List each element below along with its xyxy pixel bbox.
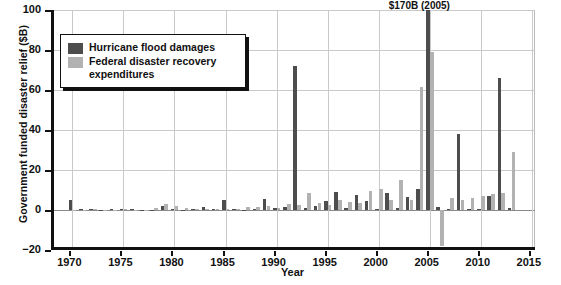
- y-tick-mark: [45, 170, 51, 172]
- gridline-v: [328, 10, 329, 247]
- legend-label-federal: Federal disaster recovery expenditures: [89, 55, 238, 80]
- gridline-v: [532, 10, 533, 247]
- bar: [226, 209, 230, 210]
- x-axis-title: Year: [12, 266, 561, 278]
- bar: [267, 206, 271, 210]
- bar: [287, 204, 291, 210]
- bar: [512, 152, 516, 210]
- bar: [430, 52, 434, 210]
- bar: [471, 198, 475, 210]
- bar: [175, 206, 179, 210]
- bar: [491, 194, 495, 210]
- chart-legend: Hurricane flood damages Federal disaster…: [60, 34, 246, 88]
- y-tick-label: 100: [0, 3, 41, 15]
- bar: [103, 210, 107, 211]
- bar: [73, 210, 77, 211]
- bar: [399, 180, 403, 210]
- plot-right-border: [534, 10, 535, 247]
- bar: [457, 134, 461, 210]
- bar: [358, 203, 362, 210]
- x-tick-mark: [427, 251, 429, 256]
- bar: [293, 66, 297, 210]
- bar: [498, 78, 502, 210]
- legend-item-federal: Federal disaster recovery expenditures: [68, 55, 238, 80]
- y-tick-label: 0: [0, 203, 41, 215]
- peak-annotation: $170B (2005): [389, 0, 450, 11]
- bar: [216, 209, 220, 210]
- x-tick-mark: [120, 251, 122, 256]
- gridline-v: [277, 10, 278, 247]
- bar: [69, 200, 73, 210]
- bar: [389, 200, 393, 210]
- bar: [236, 209, 240, 210]
- bar: [450, 198, 454, 210]
- bar: [195, 209, 199, 210]
- bar: [297, 205, 301, 210]
- bar: [256, 207, 260, 210]
- x-tick-mark: [529, 251, 531, 256]
- bar: [338, 200, 342, 210]
- y-tick-label: −20: [0, 243, 41, 255]
- bar: [246, 207, 250, 210]
- x-tick-mark: [69, 251, 71, 256]
- x-tick-mark: [376, 251, 378, 256]
- y-tick-mark: [45, 50, 51, 52]
- bar: [410, 200, 414, 210]
- bar: [379, 189, 383, 210]
- bar: [113, 210, 117, 211]
- bar: [461, 200, 465, 210]
- bar: [328, 205, 332, 210]
- bar: [307, 193, 311, 210]
- legend-swatch-dark: [68, 43, 83, 54]
- x-tick-mark: [478, 251, 480, 256]
- bar: [277, 208, 281, 210]
- bar: [144, 210, 148, 211]
- gridline-v: [481, 10, 482, 247]
- x-tick-mark: [325, 251, 327, 256]
- gridline-v: [379, 10, 380, 247]
- bar: [83, 210, 87, 211]
- y-tick-mark: [45, 130, 51, 132]
- y-tick-mark: [45, 210, 51, 212]
- bar: [134, 210, 138, 211]
- bar: [440, 210, 444, 246]
- bar: [481, 196, 485, 210]
- bar: [154, 208, 158, 210]
- bar: [164, 204, 168, 210]
- y-tick-label: 40: [0, 123, 41, 135]
- bar: [93, 209, 97, 210]
- bar: [369, 191, 373, 210]
- y-tick-mark: [45, 90, 51, 92]
- x-tick-mark: [223, 251, 225, 256]
- y-tick-label: 20: [0, 163, 41, 175]
- bar: [348, 202, 352, 210]
- x-tick-mark: [274, 251, 276, 256]
- y-tick-mark: [45, 10, 51, 12]
- gridline-h: [54, 10, 535, 11]
- legend-item-hurricane: Hurricane flood damages: [68, 41, 238, 54]
- y-tick-mark: [45, 250, 51, 252]
- legend-label-hurricane: Hurricane flood damages: [89, 41, 215, 54]
- bar: [318, 203, 322, 210]
- y-tick-label: 80: [0, 43, 41, 55]
- bar: [205, 209, 209, 210]
- x-tick-mark: [171, 251, 173, 256]
- bar: [185, 208, 189, 210]
- chart-root: Government funded disaster relief ($B) 1…: [0, 0, 561, 285]
- y-tick-label: 60: [0, 83, 41, 95]
- legend-swatch-light: [68, 57, 83, 68]
- bar: [420, 87, 424, 210]
- bar: [501, 193, 505, 210]
- bar: [124, 209, 128, 210]
